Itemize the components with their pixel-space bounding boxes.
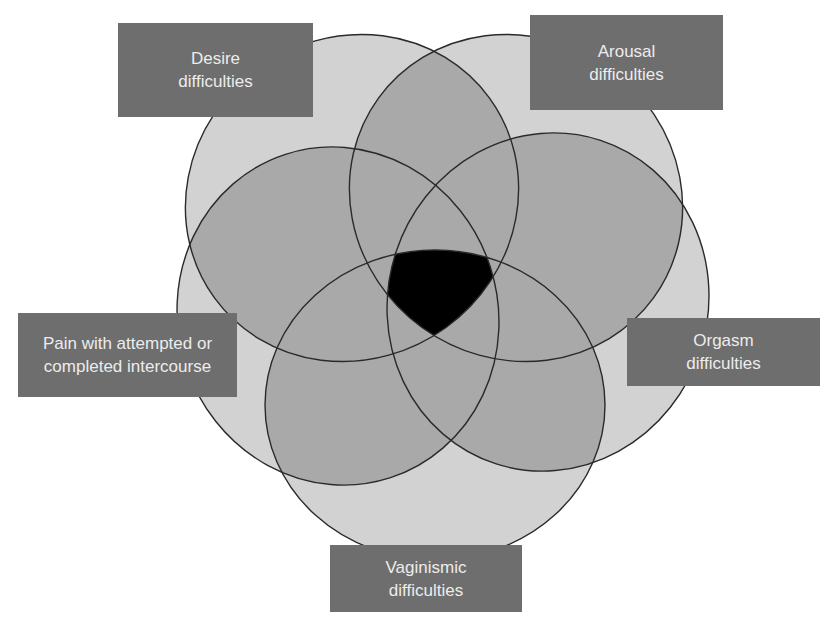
label-pain-line2: completed intercourse bbox=[43, 355, 212, 378]
label-orgasm-line2: difficulties bbox=[686, 352, 760, 375]
label-pain-line1: Pain with attempted or bbox=[43, 332, 212, 355]
label-pain: Pain with attempted or completed interco… bbox=[18, 313, 237, 397]
label-vaginismic: Vaginismic difficulties bbox=[330, 545, 522, 612]
label-arousal-line1: Arousal bbox=[589, 40, 663, 63]
label-vaginismic-line1: Vaginismic bbox=[386, 556, 467, 579]
label-desire: Desire difficulties bbox=[118, 23, 313, 117]
label-orgasm-line1: Orgasm bbox=[686, 329, 760, 352]
label-arousal: Arousal difficulties bbox=[530, 15, 723, 110]
label-desire-line1: Desire bbox=[178, 47, 252, 70]
label-desire-line2: difficulties bbox=[178, 70, 252, 93]
label-orgasm: Orgasm difficulties bbox=[627, 318, 820, 386]
label-vaginismic-line2: difficulties bbox=[386, 579, 467, 602]
label-arousal-line2: difficulties bbox=[589, 63, 663, 86]
